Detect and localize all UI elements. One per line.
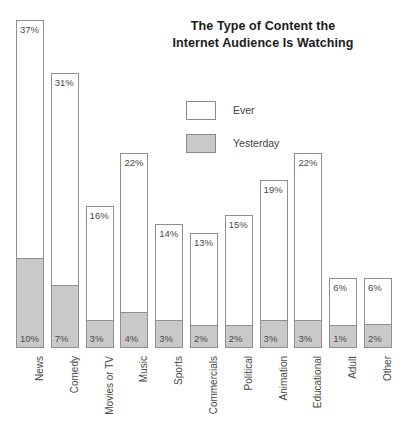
bar-group: 6%1% [329, 0, 357, 348]
bar-group: 31%7% [51, 0, 79, 348]
category-label: Movies or TV [104, 356, 115, 415]
bar-group: 22%3% [294, 0, 322, 348]
bar-value-label-ever: 16% [90, 210, 109, 221]
category-label: Comedy [69, 356, 80, 393]
bar-stack[interactable]: 13%2% [190, 233, 218, 348]
bar-value-label-yesterday: 2% [229, 333, 243, 344]
category-label: Commercials [208, 356, 219, 414]
bar-value-label-yesterday: 3% [264, 333, 278, 344]
bar-group: 19%3% [260, 0, 288, 348]
bar-value-label-ever: 6% [333, 282, 347, 293]
bar-value-label-ever: 14% [159, 228, 178, 239]
bar-value-label-yesterday: 2% [194, 333, 208, 344]
category-label: Political [243, 356, 254, 390]
bar-stack[interactable]: 19%3% [260, 180, 288, 348]
bar-group: 14%3% [155, 0, 183, 348]
bar-stack[interactable]: 6%2% [364, 278, 392, 348]
category-label: Other [382, 356, 393, 381]
bar-value-label-yesterday: 4% [124, 333, 138, 344]
bar-value-label-yesterday: 3% [298, 333, 312, 344]
bar-value-label-ever: 6% [368, 282, 382, 293]
bar-value-label-ever: 31% [55, 77, 74, 88]
bar-stack[interactable]: 16%3% [86, 206, 114, 348]
category-label: Sports [173, 356, 184, 385]
bar-value-label-yesterday: 7% [55, 333, 69, 344]
bar-stack[interactable]: 15%2% [225, 215, 253, 348]
bar-stack[interactable]: 22%4% [120, 153, 148, 348]
bar-stack[interactable]: 14%3% [155, 224, 183, 348]
bar-value-label-yesterday: 10% [20, 333, 39, 344]
bar-value-label-ever: 37% [20, 24, 39, 35]
category-label: Music [138, 356, 149, 382]
category-label: News [34, 356, 45, 381]
bar-stack[interactable]: 6%1% [329, 278, 357, 348]
bar-group: 16%3% [86, 0, 114, 348]
bar-group: 37%10% [16, 0, 44, 348]
plot-area: 37%10%News31%7%Comedy16%3%Movies or TV22… [0, 0, 411, 440]
bar-value-label-yesterday: 2% [368, 333, 382, 344]
bar-group: 13%2% [190, 0, 218, 348]
bar-group: 6%2% [364, 0, 392, 348]
chart-container: The Type of Content the Internet Audienc… [0, 0, 411, 440]
bar-value-label-ever: 13% [194, 237, 213, 248]
category-label: Adult [347, 356, 358, 379]
category-label: Educational [312, 356, 323, 408]
bar-value-label-ever: 22% [298, 157, 317, 168]
bar-group: 22%4% [120, 0, 148, 348]
bar-value-label-ever: 22% [124, 157, 143, 168]
bar-value-label-yesterday: 3% [159, 333, 173, 344]
bar-group: 15%2% [225, 0, 253, 348]
bar-stack[interactable]: 22%3% [294, 153, 322, 348]
bar-value-label-yesterday: 3% [90, 333, 104, 344]
bar-value-label-ever: 19% [264, 184, 283, 195]
category-label: Animation [278, 356, 289, 400]
bar-value-label-ever: 15% [229, 219, 248, 230]
bar-stack[interactable]: 37%10% [16, 20, 44, 348]
bar-value-label-yesterday: 1% [333, 333, 347, 344]
bar-stack[interactable]: 31%7% [51, 73, 79, 348]
